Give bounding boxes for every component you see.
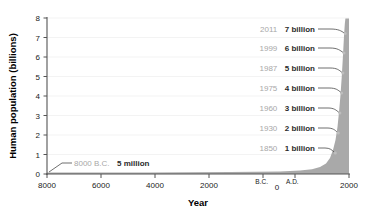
y-tick-3: 3	[36, 112, 41, 121]
y-tick-5: 5	[36, 73, 41, 82]
annotation-1850-year: 1850	[260, 144, 278, 153]
annotation-1960-value: 3 billion	[285, 104, 315, 113]
chart-canvas: 8 7 6 5 4 3 2 1 0 8000 6000 4000 2000 0 …	[0, 0, 370, 219]
x-tick-6000bc: 6000	[92, 181, 110, 190]
x-tick-labels: 8000 6000 4000 2000 0 2000 B.C. A.D.	[38, 178, 358, 192]
x-era-bc: B.C.	[255, 178, 268, 185]
annotation-1930-value: 2 billion	[285, 124, 315, 133]
annotation-2011-year: 2011	[260, 25, 278, 34]
y-tick-7: 7	[36, 34, 41, 43]
y-tick-0: 0	[36, 170, 41, 179]
x-tick-zero: 0	[275, 183, 280, 192]
x-tick-2000ad: 2000	[340, 181, 358, 190]
x-tick-8000bc: 8000	[38, 181, 56, 190]
annotation-1987-year: 1987	[260, 64, 278, 73]
y-axis-title: Human population (billions)	[7, 33, 18, 159]
annotation-1975-value: 4 billion	[285, 84, 315, 93]
y-tick-labels: 8 7 6 5 4 3 2 1 0	[36, 14, 41, 179]
annotation-2011-value: 7 billion	[285, 25, 315, 34]
y-tick-1: 1	[36, 151, 41, 160]
y-tick-6: 6	[36, 53, 41, 62]
x-axis-ticks	[47, 174, 349, 178]
annotation-1930-year: 1930	[260, 124, 278, 133]
annotation-1999-value: 6 billion	[285, 44, 315, 53]
x-tick-2000bc: 2000	[200, 181, 218, 190]
x-axis-title: Year	[188, 197, 208, 208]
x-tick-4000bc: 4000	[146, 181, 164, 190]
annotation-1960-year: 1960	[260, 104, 278, 113]
annotation-1975-year: 1975	[260, 84, 278, 93]
annotation-1987-value: 5 billion	[285, 64, 315, 73]
annotation-8000bc-year: 8000 B.C.	[74, 159, 110, 168]
annotation-1850-value: 1 billion	[285, 144, 315, 153]
annotation-8000bc-value: 5 million	[117, 159, 150, 168]
x-era-ad: A.D.	[286, 178, 299, 185]
population-chart: 8 7 6 5 4 3 2 1 0 8000 6000 4000 2000 0 …	[0, 0, 370, 219]
y-tick-2: 2	[36, 131, 41, 140]
y-tick-8: 8	[36, 14, 41, 23]
annotation-1999-year: 1999	[260, 44, 278, 53]
y-tick-4: 4	[36, 92, 41, 101]
